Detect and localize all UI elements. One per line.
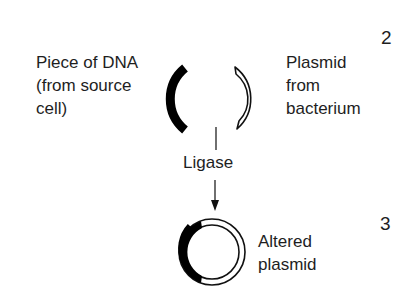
open-plasmid-arc-icon	[235, 67, 251, 129]
dna-piece-label-line: (from source	[36, 74, 138, 97]
plasmid-label-line: bacterium	[286, 97, 361, 120]
recombinant-plasmid-ring-icon	[179, 219, 245, 285]
dna-fragment-arc-icon	[170, 68, 185, 130]
step-number-3: 3	[380, 214, 391, 234]
dna-piece-label: Piece of DNA (from source cell)	[36, 51, 138, 120]
dna-piece-label-line: cell)	[36, 97, 138, 120]
altered-plasmid-label-line: plasmid	[258, 253, 317, 276]
plasmid-label-line: Plasmid	[286, 51, 361, 74]
step-number-2: 2	[381, 28, 392, 48]
plasmid-label: Plasmid from bacterium	[286, 51, 361, 120]
plasmid-label-line: from	[286, 74, 361, 97]
altered-plasmid-label: Altered plasmid	[258, 230, 317, 276]
ligase-label: Ligase	[183, 151, 233, 174]
dna-piece-label-line: Piece of DNA	[36, 51, 138, 74]
arrow-down-icon	[211, 180, 219, 211]
altered-plasmid-label-line: Altered	[258, 230, 317, 253]
